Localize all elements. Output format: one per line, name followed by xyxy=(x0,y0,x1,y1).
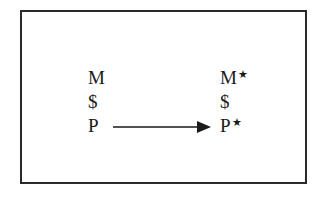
right-column: M★ $ P★ xyxy=(220,66,248,138)
right-label-m-star: M★ xyxy=(220,66,248,90)
right-label-dollar: $ xyxy=(220,90,248,114)
star-icon: ★ xyxy=(232,116,242,128)
star-icon: ★ xyxy=(238,68,248,80)
left-label-dollar: $ xyxy=(88,90,105,114)
arrow-right-icon xyxy=(113,119,213,135)
symbol-p: P xyxy=(220,115,231,136)
left-column: M $ P xyxy=(88,66,105,138)
symbol-dollar: $ xyxy=(88,91,98,112)
right-label-p-star: P★ xyxy=(220,114,248,138)
left-label-p: P xyxy=(88,114,105,138)
symbol-m: M xyxy=(88,67,105,88)
symbol-p: P xyxy=(88,115,99,136)
symbol-m: M xyxy=(220,67,237,88)
symbol-dollar: $ xyxy=(220,91,230,112)
left-label-m: M xyxy=(88,66,105,90)
diagram-frame xyxy=(20,10,307,184)
